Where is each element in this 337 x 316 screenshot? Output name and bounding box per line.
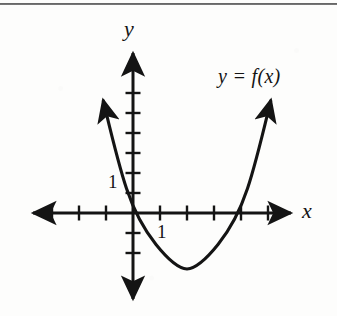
y-axis	[126, 53, 141, 299]
y-axis-label: y	[124, 18, 134, 40]
function-curve	[103, 101, 270, 269]
x-axis-tick-label-one: 1	[157, 222, 167, 241]
y-axis-tick-label-one: 1	[108, 172, 118, 191]
graph-canvas	[0, 0, 337, 316]
x-axis	[33, 206, 291, 221]
x-axis-label: x	[302, 200, 312, 222]
parabola-path	[103, 101, 270, 269]
graph-figure	[0, 0, 337, 316]
curve-equation-label: y = f(x)	[218, 66, 281, 86]
